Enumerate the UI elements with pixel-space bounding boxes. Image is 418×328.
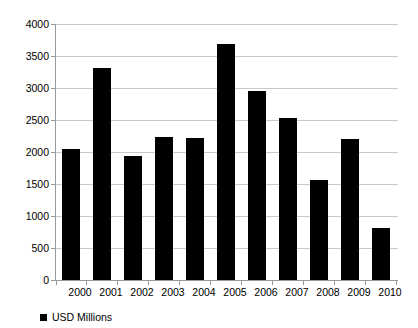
legend-swatch-icon bbox=[40, 314, 47, 321]
x-tick-mark bbox=[241, 281, 242, 285]
bar bbox=[62, 149, 80, 280]
y-axis-tick-label: 2500 bbox=[26, 115, 49, 126]
bar bbox=[217, 44, 235, 280]
bar bbox=[155, 137, 173, 280]
x-tick-mark bbox=[117, 281, 118, 285]
legend-label: USD Millions bbox=[52, 312, 112, 323]
y-axis-tick-label: 3500 bbox=[26, 51, 49, 62]
bar-chart: 05001000150020002500300035004000 2000200… bbox=[0, 0, 418, 328]
x-tick-mark bbox=[210, 281, 211, 285]
x-tick-mark bbox=[272, 281, 273, 285]
y-axis-tick-label: 1500 bbox=[26, 179, 49, 190]
bar bbox=[186, 138, 204, 280]
gridline bbox=[55, 24, 398, 25]
plot-area: 05001000150020002500300035004000 bbox=[55, 24, 398, 280]
x-tick-mark bbox=[179, 281, 180, 285]
x-tick-mark bbox=[396, 281, 397, 285]
x-tick-mark bbox=[148, 281, 149, 285]
legend: USD Millions bbox=[40, 312, 112, 323]
bar bbox=[124, 156, 142, 280]
y-axis-tick-label: 0 bbox=[43, 275, 49, 286]
bar bbox=[372, 228, 390, 280]
y-axis-tick-label: 1000 bbox=[26, 211, 49, 222]
y-axis-line bbox=[55, 24, 56, 281]
y-axis-tick-label: 3000 bbox=[26, 83, 49, 94]
bar bbox=[248, 91, 266, 280]
x-axis-tick-label: 2010 bbox=[370, 287, 410, 298]
x-tick-mark bbox=[303, 281, 304, 285]
y-axis-tick-label: 4000 bbox=[26, 19, 49, 30]
x-tick-mark bbox=[56, 281, 57, 285]
y-axis-tick-label: 500 bbox=[31, 243, 49, 254]
x-tick-mark bbox=[86, 281, 87, 285]
bar bbox=[310, 180, 328, 280]
x-tick-mark bbox=[365, 281, 366, 285]
bar bbox=[341, 139, 359, 280]
x-tick-mark bbox=[334, 281, 335, 285]
bar bbox=[279, 118, 297, 280]
y-axis-tick-label: 2000 bbox=[26, 147, 49, 158]
x-axis-line bbox=[55, 280, 398, 281]
bar bbox=[93, 68, 111, 280]
